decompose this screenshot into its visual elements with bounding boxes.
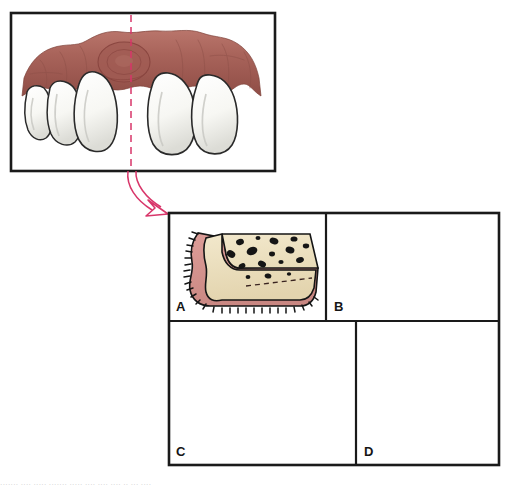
bone-a bbox=[204, 234, 318, 301]
cross-section-a bbox=[184, 232, 318, 313]
page-caption: ······· ···· ····· ······· ····· ···· ··… bbox=[0, 481, 505, 489]
illustration-canvas bbox=[0, 0, 505, 489]
panel-label-d: D bbox=[364, 444, 374, 459]
caption-strip: ······· ···· ····· ······· ····· ···· ··… bbox=[0, 481, 505, 489]
panel-label-a: A bbox=[176, 299, 186, 314]
panel-label-b: B bbox=[334, 299, 344, 314]
gingival-swelling-lesion bbox=[98, 42, 150, 82]
figure-root: A B C D ······· ···· ····· ······· ·····… bbox=[0, 0, 505, 489]
panel-label-c: C bbox=[176, 444, 186, 459]
section-arrow bbox=[128, 171, 168, 216]
